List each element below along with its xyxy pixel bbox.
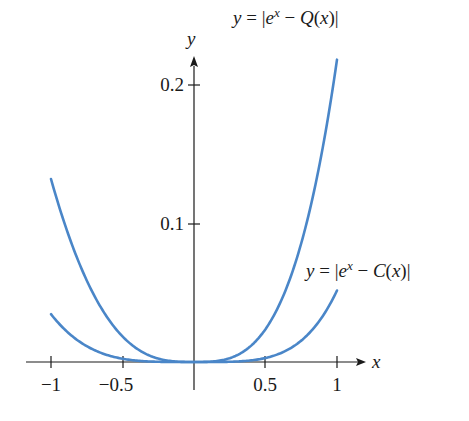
x-tick-label: −1 <box>41 374 61 395</box>
x-tick-label: −0.5 <box>99 374 133 395</box>
y-axis-label: y <box>185 28 196 49</box>
annotation-q: y = |ex − Q(x)| <box>231 5 339 29</box>
y-tick-label: 0.2 <box>160 74 184 95</box>
x-axis-label: x <box>371 351 381 372</box>
y-tick-label: 0.1 <box>160 213 184 234</box>
annotation-c: y = |ex − C(x)| <box>304 258 411 282</box>
x-tick-label: 0.5 <box>253 374 277 395</box>
chart-canvas: x y −1 −0.5 0.5 1 0.1 0.2 y = |ex − Q(x)… <box>0 0 469 421</box>
x-tick-label: 1 <box>332 374 342 395</box>
y-axis-arrow-icon <box>190 56 198 67</box>
